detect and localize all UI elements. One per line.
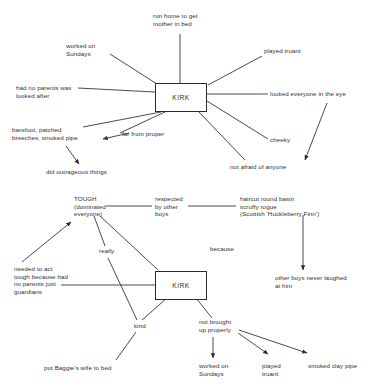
connector-worked-sundays [110,54,157,84]
mind-map-canvas: KIRK run home to get mother in bed worke… [0,0,386,391]
node-had-no-parents[interactable]: had no parents was looked after [16,84,71,99]
connector-cheeky [207,101,268,139]
center-node-label: KIRK [172,94,189,101]
node-looked-everyone-in-the-eye[interactable]: looked everyone in the eye [270,90,346,98]
connector-kirk-notbrought [196,298,212,318]
node-played-truant[interactable]: played truant [264,47,301,55]
node-haircut-round-basin[interactable]: haircut round basin scruffy rogue (Scott… [240,195,319,218]
node-worked-on-sundays[interactable]: worked on Sundays [66,42,95,57]
node-not-brought-up-properly[interactable]: not brought up properly [199,318,231,333]
connector-barefoot [83,112,161,127]
connector-needed-to-tough [22,222,71,262]
node-played-truant-bottom[interactable]: played truant [262,362,281,377]
connector-barefoot-to-outrageous [66,146,79,164]
node-tough-dominated-everyone[interactable]: TOUGH (dominated everyone) [74,195,106,218]
node-because[interactable]: because [210,245,234,253]
node-far-from-proper[interactable]: far from proper [122,130,164,138]
node-run-home[interactable]: run home to get mother in bed [153,12,209,27]
connector-not-afraid [198,111,245,160]
connector-tough-really [94,216,105,246]
connector-looked-eye-down [305,103,327,160]
connector-tough-kirk [100,216,158,270]
node-really[interactable]: really [99,247,114,255]
connector-kirk-kind [142,298,167,320]
connector-lines-layer [0,0,386,391]
node-did-outrageous-things[interactable]: did outrageous things [46,168,107,176]
node-smoked-clay-pipe[interactable]: smoked clay pipe [308,362,357,370]
center-node-kirk-bottom[interactable]: KIRK [155,271,207,300]
connector-kind-baggie [116,332,136,360]
connector-really-kind [108,258,137,320]
connector-notbrought-clay-pipe [239,330,307,353]
node-kind[interactable]: kind [134,322,146,330]
node-needed-to-act-tough[interactable]: needed to act tough because had no paren… [14,265,68,295]
connector-no-parents [78,88,155,92]
center-node-kirk-top[interactable]: KIRK [155,83,207,112]
node-worked-on-sundays-bottom[interactable]: worked on Sundays [199,362,228,377]
node-barefoot-patched-breeches[interactable]: barefoot, patched breeches, smoked pipe [12,126,78,141]
node-other-boys-never-laughed[interactable]: other boys never laughed at him [275,274,347,289]
node-put-baggies-wife-to-bed[interactable]: put Baggie's wife to bed [44,364,111,372]
center-node-label: KIRK [172,282,189,289]
node-respected-by-other-boys[interactable]: respected by other boys [155,195,183,218]
node-cheeky[interactable]: cheeky [270,136,290,144]
node-not-afraid-of-anyone[interactable]: not afraid of anyone [230,163,286,171]
connector-played-truant [208,56,262,85]
connector-notbrought-truant [238,333,268,354]
